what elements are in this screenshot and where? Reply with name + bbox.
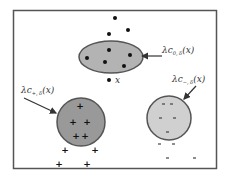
arrow-c-minus (184, 86, 196, 99)
plus-point: + (81, 131, 89, 141)
plus-point: + (83, 117, 91, 127)
plus-point: + (76, 101, 84, 111)
plus-point: + (83, 159, 91, 169)
region-c-plus: + + + + + + + + + λc+, δ(x) (20, 85, 105, 169)
circle-c-minus (147, 96, 191, 140)
plus-point: + (61, 145, 69, 155)
query-point-x (107, 78, 111, 82)
dot-point (126, 28, 130, 32)
query-point-label: x (115, 75, 120, 85)
dot-point (107, 48, 111, 52)
cluster-diagram: x λc0, δ(x) + + + + + + + + + λc+, δ(x) (0, 0, 225, 181)
plus-point: + (72, 131, 80, 141)
plus-point: + (69, 117, 77, 127)
dot-point (107, 32, 111, 36)
dot-point (128, 53, 132, 57)
plus-point: + (55, 159, 63, 169)
dot-point (103, 60, 107, 64)
plus-point: + (91, 145, 99, 155)
dot-point (113, 16, 117, 20)
arrow-c-plus (24, 98, 56, 113)
dot-point (122, 64, 126, 68)
dot-point (85, 56, 89, 60)
label-c-minus: λc−, δ(x) (171, 74, 206, 85)
label-c0: λc0, δ(x) (161, 45, 195, 56)
label-c-plus: λc+, δ(x) (20, 85, 55, 96)
region-c-minus: λc−, δ(x) (147, 74, 206, 158)
